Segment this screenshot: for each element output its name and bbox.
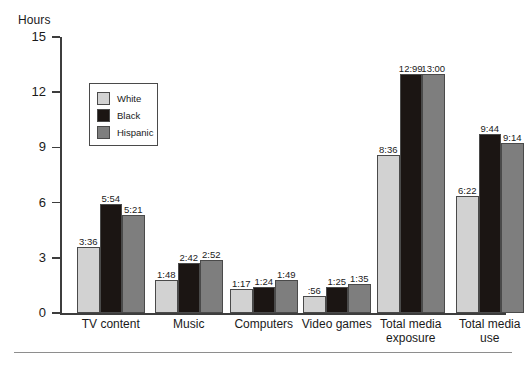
y-axis-tick: 6 bbox=[52, 202, 60, 204]
bar: 1:24 bbox=[253, 287, 276, 313]
bar-value-label: 5:54 bbox=[102, 193, 121, 204]
footer-rule bbox=[14, 352, 512, 353]
y-axis-title: Hours bbox=[18, 13, 51, 27]
bar-value-label: 13:00 bbox=[421, 63, 445, 74]
bar: 3:36 bbox=[77, 247, 100, 313]
bar: 1:49 bbox=[275, 280, 298, 313]
y-axis-tick: 12 bbox=[52, 91, 60, 93]
legend-swatch-hispanic-icon bbox=[97, 126, 110, 139]
bar-value-label: 1:24 bbox=[255, 276, 274, 287]
legend-swatch-white-icon bbox=[97, 92, 110, 105]
bar-value-label: 9:44 bbox=[481, 123, 500, 134]
bar-value-label: 1:35 bbox=[350, 273, 369, 284]
bar: 1:48 bbox=[155, 280, 178, 313]
bar: 8:36 bbox=[377, 155, 400, 313]
bar: 12:99 bbox=[400, 74, 423, 313]
y-axis-tick-label: 3 bbox=[39, 250, 46, 265]
legend: White Black Hispanic bbox=[89, 83, 158, 146]
bar: 1:17 bbox=[230, 289, 253, 313]
bar: 9:14 bbox=[501, 143, 524, 313]
bar-value-label: 9:14 bbox=[503, 132, 522, 143]
bar: 1:25 bbox=[326, 287, 349, 313]
bar-value-label: 1:25 bbox=[328, 276, 347, 287]
bar-value-label: 2:42 bbox=[180, 252, 199, 263]
bar-value-label: 12:99 bbox=[399, 63, 423, 74]
bar: 5:54 bbox=[100, 204, 123, 313]
x-axis-line bbox=[60, 313, 506, 315]
x-axis-category-label: Total media use bbox=[440, 318, 526, 345]
legend-swatch-black-icon bbox=[97, 109, 110, 122]
y-axis-tick: 9 bbox=[52, 147, 60, 149]
bar: 9:44 bbox=[479, 134, 502, 313]
y-axis-tick-label: 9 bbox=[39, 140, 46, 155]
y-axis-tick-label: 15 bbox=[32, 29, 46, 44]
bar-value-label: 5:21 bbox=[124, 204, 143, 215]
legend-item[interactable]: Black bbox=[97, 107, 151, 124]
bar-value-label: 8:36 bbox=[379, 144, 398, 155]
bar: 1:35 bbox=[348, 284, 371, 313]
y-axis-tick-label: 12 bbox=[32, 84, 46, 99]
y-axis-tick: 0 bbox=[52, 312, 60, 314]
bar-value-label: 1:48 bbox=[157, 269, 176, 280]
legend-label: Black bbox=[117, 110, 140, 121]
plot-area: 3:365:545:211:482:422:521:171:241:49:561… bbox=[60, 37, 506, 313]
bar-value-label: 3:36 bbox=[79, 236, 98, 247]
legend-label: White bbox=[117, 93, 141, 104]
y-axis-tick: 3 bbox=[52, 257, 60, 259]
y-axis-tick: 15 bbox=[52, 36, 60, 38]
bar: 2:52 bbox=[200, 260, 223, 313]
bar: 6:22 bbox=[456, 196, 479, 313]
bar-value-label: 6:22 bbox=[458, 185, 477, 196]
bar-chart: Hours 03691215 3:365:545:211:482:422:521… bbox=[0, 0, 526, 365]
legend-label: Hispanic bbox=[117, 127, 153, 138]
bar-value-label: :56 bbox=[308, 285, 321, 296]
bar: :56 bbox=[303, 296, 326, 313]
bar: 5:21 bbox=[122, 215, 145, 313]
legend-item[interactable]: Hispanic bbox=[97, 124, 151, 141]
bar-value-label: 1:49 bbox=[277, 269, 296, 280]
bar: 2:42 bbox=[178, 263, 201, 313]
bar: 13:00 bbox=[422, 74, 445, 313]
y-axis-tick-label: 0 bbox=[39, 305, 46, 320]
legend-item[interactable]: White bbox=[97, 90, 151, 107]
bar-value-label: 1:17 bbox=[232, 278, 251, 289]
bar-value-label: 2:52 bbox=[202, 249, 221, 260]
y-axis-tick-label: 6 bbox=[39, 195, 46, 210]
